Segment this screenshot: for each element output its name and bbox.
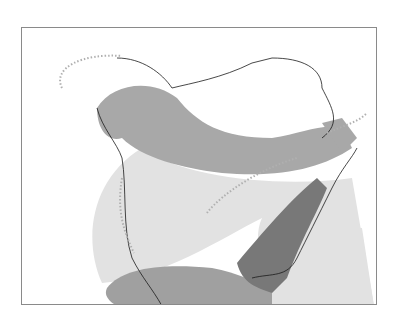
range-map — [21, 27, 377, 305]
north-america-map — [22, 28, 377, 305]
